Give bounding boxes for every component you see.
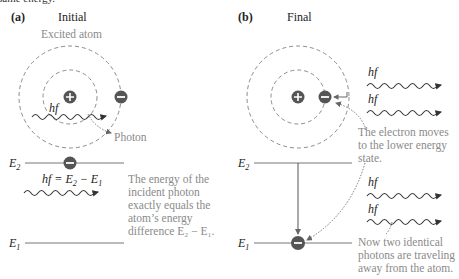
- panel-b-letter: (b): [238, 10, 253, 24]
- photon-wave-b1: [367, 84, 441, 89]
- photon-wave-b2: [367, 111, 441, 116]
- caption-b-top: The electron moves to the lower energy s…: [358, 126, 452, 164]
- panel-a-letter: (a): [11, 10, 25, 24]
- electron-minus-icon: [115, 91, 128, 104]
- incident-photon-wave: [32, 115, 106, 120]
- electron-minus-icon: [64, 157, 77, 170]
- nucleus-plus-icon: [64, 91, 77, 104]
- electron-minus-icon: [319, 91, 332, 104]
- photon-wave-b4: [367, 220, 441, 225]
- photon-hf-label-1: hf: [368, 65, 379, 79]
- panel-a-title: Initial: [58, 10, 87, 24]
- photon-hf-label-3: hf: [368, 175, 379, 189]
- photon-wave-a-lower: [24, 191, 98, 196]
- top-cutoff-text: same energy.: [0, 0, 55, 4]
- photon-hf-label-4: hf: [368, 202, 379, 216]
- stimulated-emission-diagram: same energy. (a) Initial Excited atom hf…: [0, 0, 459, 279]
- energy-equation: hf = E2 − E1: [42, 172, 102, 188]
- photon-hf-label-2: hf: [368, 92, 379, 106]
- photon-wave-b3: [367, 194, 441, 199]
- photon-pointer: [88, 114, 111, 133]
- level-e2-b: E2: [237, 156, 249, 172]
- level-e1-a: E1: [8, 236, 20, 252]
- lower-state-pointer: [307, 163, 365, 240]
- level-e1-b: E1: [237, 236, 249, 252]
- photon-label: Photon: [114, 131, 147, 143]
- level-e2-a: E2: [8, 156, 20, 172]
- excited-atom-label: Excited atom: [41, 28, 102, 40]
- caption-a: The energy of the incident photon exactl…: [128, 173, 215, 237]
- panel-a: (a) Initial Excited atom hf Photon E2 hf…: [8, 10, 215, 252]
- panel-b: (b) Final hf hf The electron moves to th…: [237, 10, 458, 275]
- photon-hf-label: hf: [49, 101, 60, 115]
- nucleus-plus-icon: [292, 91, 305, 104]
- transition-arrow-orbit: [334, 92, 347, 97]
- electron-minus-icon: [291, 236, 305, 250]
- panel-b-title: Final: [287, 10, 312, 24]
- caption-b-bottom: Now two identical photons are traveling …: [358, 236, 458, 275]
